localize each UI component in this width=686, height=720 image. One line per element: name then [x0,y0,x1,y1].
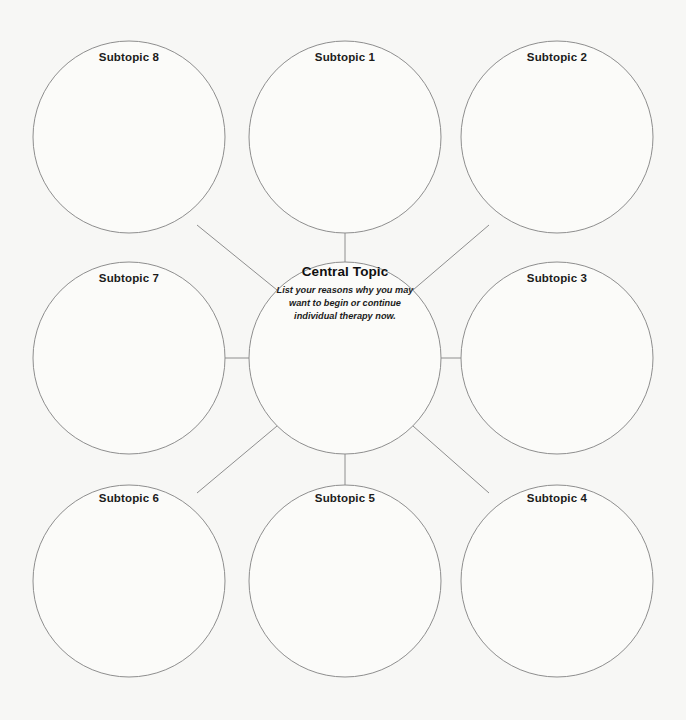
subtopic-6-bubble[interactable] [33,485,225,677]
mind-map-worksheet: Subtopic 8Subtopic 1Subtopic 2Subtopic 7… [0,0,686,720]
subtopic-4-bubble[interactable] [461,485,653,677]
subtopic-8-bubble[interactable] [33,41,225,233]
bubble-layer [33,41,653,677]
connector-center-to-subtopic-2 [413,225,489,290]
subtopic-2-bubble[interactable] [461,41,653,233]
connector-center-to-subtopic-6 [197,426,277,493]
connector-center-to-subtopic-4 [413,426,489,493]
mind-map-canvas [0,0,686,720]
connector-center-to-subtopic-8 [197,225,277,290]
subtopic-3-bubble[interactable] [461,262,653,454]
subtopic-7-bubble[interactable] [33,262,225,454]
central-topic-bubble[interactable] [249,262,441,454]
subtopic-1-bubble[interactable] [249,41,441,233]
subtopic-5-bubble[interactable] [249,485,441,677]
